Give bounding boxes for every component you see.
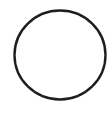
circle-outline-graphic (0, 0, 108, 116)
circle-outline-icon (15, 11, 106, 100)
canvas (0, 0, 108, 116)
